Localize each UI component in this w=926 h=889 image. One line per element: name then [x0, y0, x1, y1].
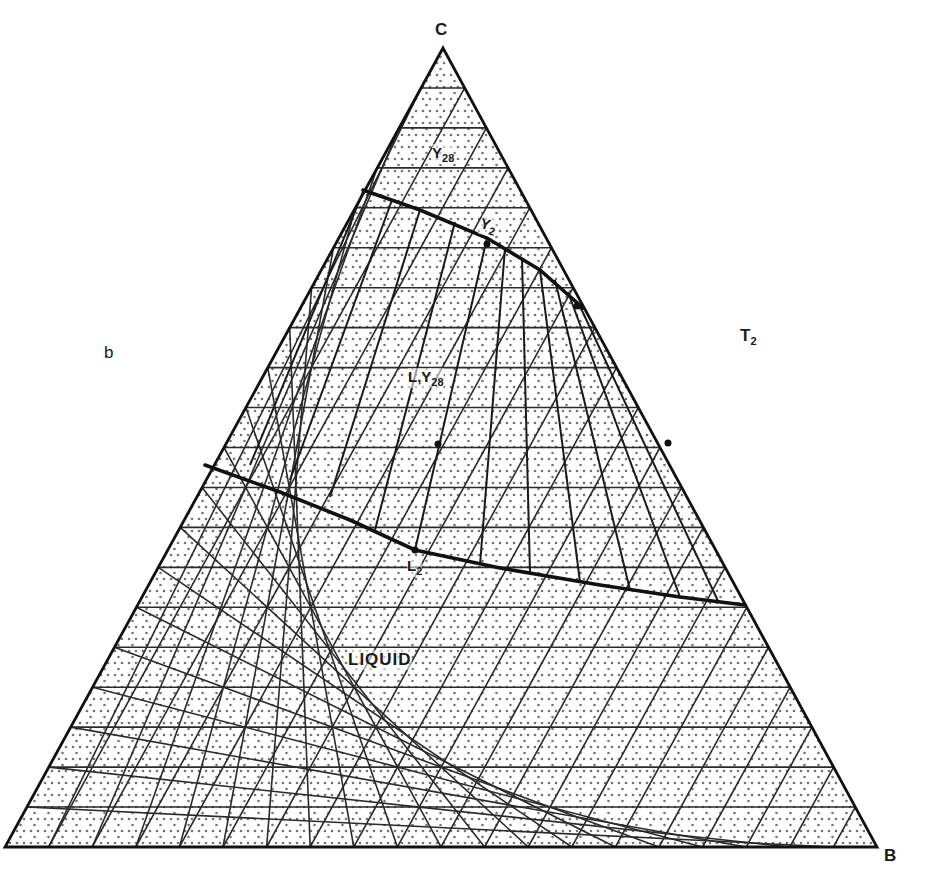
liquid-region-label: LIQUID	[348, 650, 412, 670]
point-label-l-y28: L,Y28	[408, 368, 444, 388]
center-point-sub: 28	[431, 376, 443, 388]
lower-point	[412, 547, 419, 554]
edge-marker-right-top	[574, 303, 581, 310]
upper-point	[484, 241, 491, 248]
lower-point-main: L	[407, 557, 416, 574]
panel-label: b	[104, 343, 113, 363]
corner-label-c: C	[435, 20, 447, 40]
lower-point-sub: 2	[416, 565, 422, 577]
temperature-sub: 2	[750, 335, 756, 347]
ternary-phase-diagram	[0, 0, 926, 889]
region-main: Y	[432, 144, 442, 161]
temperature-label: T2	[740, 326, 757, 347]
corner-label-b: B	[884, 846, 896, 866]
region-label-y28: Y28	[432, 144, 454, 164]
center-point-main: L,Y	[408, 368, 431, 385]
edge-marker-right	[665, 440, 672, 447]
center-point	[435, 441, 442, 448]
temperature-main: T	[740, 326, 750, 345]
point-label-l2: L2	[407, 557, 422, 577]
region-sub: 28	[442, 152, 454, 164]
